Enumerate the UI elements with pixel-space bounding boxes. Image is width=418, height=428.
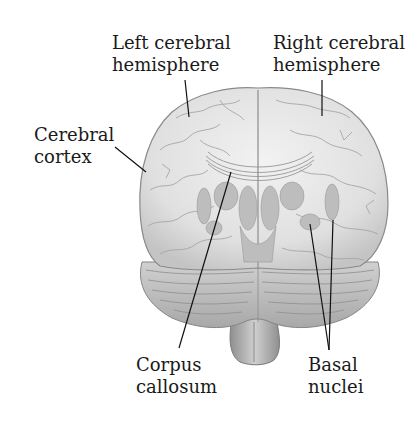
label-line: hemisphere [273,54,405,76]
label-line: hemisphere [112,54,231,76]
label-corpus-callosum: Corpus callosum [136,354,217,398]
cerebellum [140,262,379,328]
brainstem [230,318,279,365]
label-basal-nuclei: Basal nuclei [308,354,363,398]
label-line: nuclei [308,376,363,398]
label-line: cortex [34,146,114,168]
cerebrum [140,88,388,270]
label-line: Corpus [136,354,217,376]
label-line: Basal [308,354,363,376]
label-line: Right cerebral [273,32,405,54]
label-line: callosum [136,376,217,398]
label-right-cerebral-hemisphere: Right cerebral hemisphere [273,32,405,76]
label-cerebral-cortex: Cerebral cortex [34,124,114,168]
leader-cerebral-cortex [115,147,146,172]
label-left-cerebral-hemisphere: Left cerebral hemisphere [112,32,231,76]
label-line: Cerebral [34,124,114,146]
label-line: Left cerebral [112,32,231,54]
